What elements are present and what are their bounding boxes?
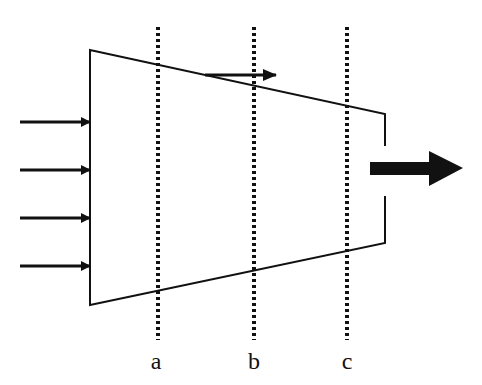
- section-label-a: a: [151, 348, 162, 375]
- section-label-c: c: [342, 348, 353, 375]
- diagram-canvas: a b c: [0, 0, 482, 385]
- duct-outline: [90, 50, 385, 305]
- nozzle-diagram: [0, 0, 482, 385]
- section-label-b: b: [248, 348, 260, 375]
- inflow-arrows: [20, 122, 90, 266]
- outflow-arrow: [370, 151, 463, 186]
